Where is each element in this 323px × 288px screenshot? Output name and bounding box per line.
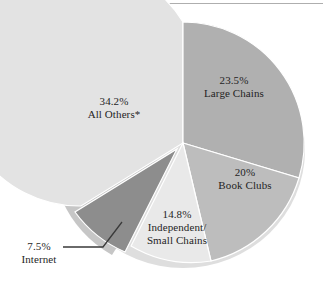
slice-label-independent-small-chains: 14.8% Independent/ Small Chains bbox=[124, 208, 230, 247]
slice-label-independent-value: 14.8% bbox=[124, 208, 230, 221]
slice-label-all-others-name: All Others* bbox=[62, 108, 166, 121]
slice-label-independent-name-line2: Small Chains bbox=[124, 234, 230, 247]
slice-label-all-others-value: 34.2% bbox=[62, 95, 166, 108]
slice-label-book-clubs-name: Book Clubs bbox=[198, 179, 292, 192]
slice-label-large-chains-name: Large Chains bbox=[186, 87, 282, 100]
slice-label-large-chains-value: 23.5% bbox=[186, 74, 282, 87]
slice-label-internet-callout: 7.5% Internet bbox=[2, 240, 76, 266]
slice-label-independent-name-line1: Independent/ bbox=[124, 221, 230, 234]
pie-chart-figure: 23.5% Large Chains 20% Book Clubs 14.8% … bbox=[0, 0, 323, 288]
slice-label-large-chains: 23.5% Large Chains bbox=[186, 74, 282, 100]
slice-label-book-clubs-value: 20% bbox=[198, 166, 292, 179]
slice-label-book-clubs: 20% Book Clubs bbox=[198, 166, 292, 192]
slice-label-internet-value: 7.5% bbox=[2, 240, 76, 253]
slice-label-internet-name: Internet bbox=[2, 253, 76, 266]
slice-label-all-others: 34.2% All Others* bbox=[62, 95, 166, 121]
